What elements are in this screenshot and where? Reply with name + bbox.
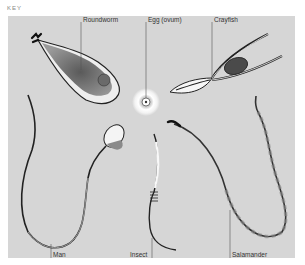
insect-sperm [149, 134, 176, 250]
crayfish-sperm [170, 34, 282, 93]
label-insect: Insect [130, 251, 148, 258]
label-roundworm: Roundworm [83, 16, 118, 23]
human-sperm [22, 95, 129, 248]
sperm-diagram: Roundworm Egg (ovum) Crayfish Man Insect… [0, 0, 305, 265]
roundworm-sperm [32, 34, 119, 104]
label-man: Man [53, 251, 66, 258]
label-egg: Egg (ovum) [148, 16, 182, 24]
label-salamander: Salamander [232, 251, 268, 258]
label-crayfish: Crayfish [214, 16, 238, 24]
salamander-sperm [168, 96, 286, 236]
